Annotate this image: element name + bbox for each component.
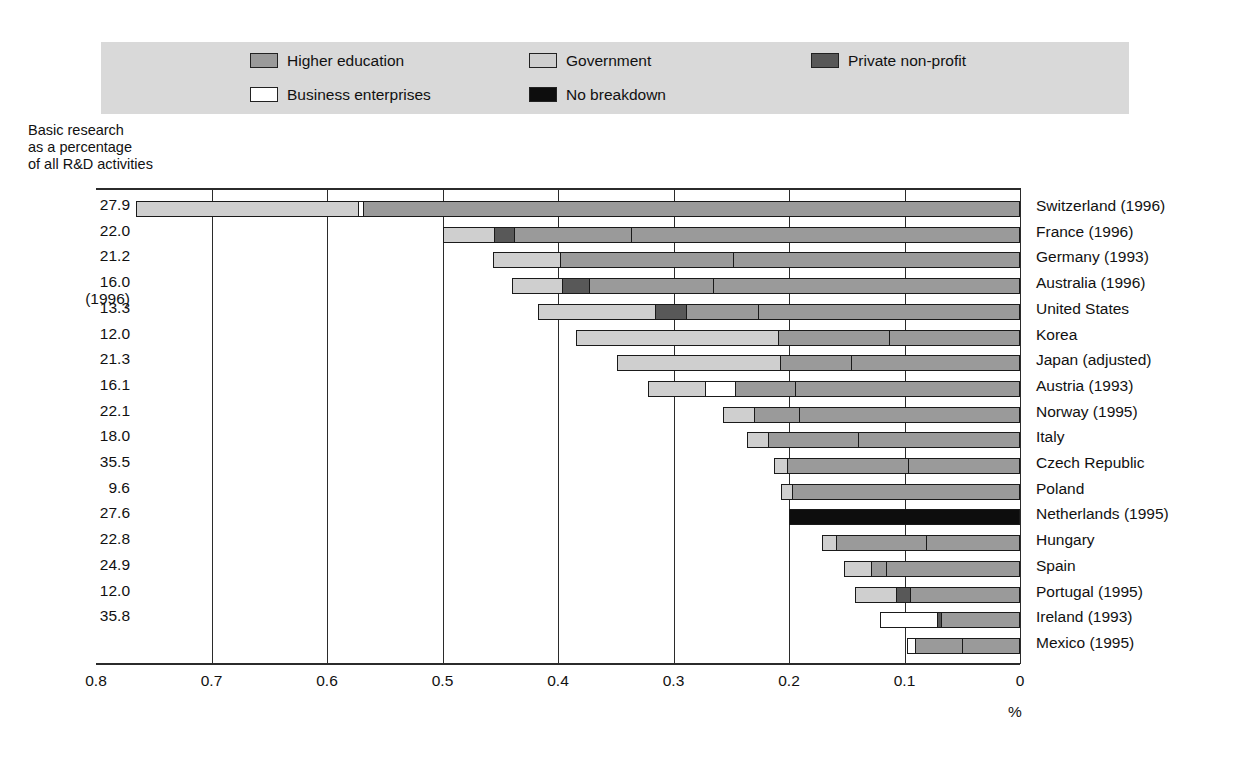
basic-research-pct-label: 35.5 <box>38 453 130 470</box>
bar-segment-government <box>137 202 358 216</box>
bar-segment-higher-education <box>758 305 1020 319</box>
bar-segment-higher-education <box>560 253 733 267</box>
bar-segment-government <box>618 356 780 370</box>
bar-segment-higher-education <box>686 305 758 319</box>
legend-label: Government <box>566 53 651 69</box>
country-label: Australia (1996) <box>1036 274 1145 292</box>
unit-label: % <box>1008 703 1022 721</box>
bar-segment-government <box>748 433 768 447</box>
bar-segment-higher-education <box>733 253 1020 267</box>
country-label: Austria (1993) <box>1036 377 1133 395</box>
bar-segment-higher-education <box>941 613 1020 627</box>
bar-segment-government <box>539 305 655 319</box>
bar-segment-government <box>724 408 754 422</box>
axis-top-rule <box>96 188 1020 190</box>
bar-segment-higher-education <box>886 562 1020 576</box>
bar-poland <box>781 484 1020 500</box>
bar-ireland-1993 <box>880 612 1020 628</box>
legend-item-private_non_profit: Private non-profit <box>811 53 966 69</box>
bar-segment-private-non-profit <box>494 228 514 242</box>
country-label: United States <box>1036 300 1129 318</box>
bar-segment-government <box>649 382 704 396</box>
basic-research-pct-label: 27.9 <box>38 196 130 213</box>
legend-label: Private non-profit <box>848 53 966 69</box>
bar-germany-1993 <box>493 252 1020 268</box>
legend-item-business_enterprises: Business enterprises <box>250 87 431 103</box>
gridline <box>905 188 906 664</box>
bar-segment-government <box>856 588 896 602</box>
axis-caption: Basic research as a percentage of all R&… <box>28 122 153 173</box>
bar-segment-higher-education <box>915 639 962 653</box>
legend-swatch-government-icon <box>529 53 557 68</box>
basic-research-pct-label: 22.8 <box>38 530 130 547</box>
basic-research-pct-label: 27.6 <box>38 504 130 521</box>
legend-label: Higher education <box>287 53 404 69</box>
bar-segment-higher-education <box>910 588 1020 602</box>
bar-segment-higher-education <box>962 639 1020 653</box>
bar-austria-1993 <box>648 381 1020 397</box>
bar-segment-higher-education <box>851 356 1020 370</box>
basic-research-pct-label: 12.0 <box>38 325 130 342</box>
bar-spain <box>844 561 1020 577</box>
bar-segment-private-non-profit <box>937 613 942 627</box>
bar-segment-government <box>577 331 778 345</box>
bar-segment-higher-education <box>858 433 1020 447</box>
legend-label: Business enterprises <box>287 87 431 103</box>
bar-portugal-1995 <box>855 587 1020 603</box>
country-label: Poland <box>1036 480 1084 498</box>
bar-segment-higher-education <box>713 279 1020 293</box>
bar-korea <box>576 330 1020 346</box>
bar-segment-higher-education <box>778 331 889 345</box>
bar-segment-higher-education <box>787 459 908 473</box>
bar-segment-higher-education <box>631 228 1020 242</box>
x-axis-tick-label: 0 <box>1016 672 1025 690</box>
chart-legend: Higher educationBusiness enterprisesGove… <box>101 42 1129 114</box>
x-axis-tick-label: 0.8 <box>85 672 107 690</box>
bar-italy <box>747 432 1020 448</box>
bar-segment-government <box>782 485 792 499</box>
bar-segment-government <box>444 228 495 242</box>
legend-label: No breakdown <box>566 87 666 103</box>
basic-research-pct-label: 35.8 <box>38 607 130 624</box>
bar-mexico-1995 <box>907 638 1020 654</box>
x-axis-tick-label: 0.5 <box>432 672 454 690</box>
bar-norway-1995 <box>723 407 1020 423</box>
gridline <box>674 188 675 664</box>
bar-netherlands-1995 <box>789 509 1020 525</box>
gridline <box>558 188 559 664</box>
country-label: Ireland (1993) <box>1036 608 1133 626</box>
bar-segment-higher-education <box>754 408 799 422</box>
bar-segment-no-breakdown <box>790 510 1020 524</box>
axis-bottom-rule <box>96 663 1020 665</box>
x-axis-tick-label: 0.4 <box>547 672 569 690</box>
bar-segment-business-enterprises <box>358 202 363 216</box>
x-axis-tick-label: 0.7 <box>201 672 223 690</box>
basic-research-pct-label: 22.0 <box>38 222 130 239</box>
gridline <box>789 188 790 664</box>
legend-swatch-private_non_profit-icon <box>811 53 839 68</box>
bar-segment-government <box>494 253 560 267</box>
bar-segment-government <box>775 459 787 473</box>
bar-segment-higher-education <box>735 382 795 396</box>
basic-research-pct-label: 18.0 <box>38 427 130 444</box>
country-label: Norway (1995) <box>1036 403 1138 421</box>
country-label: Hungary <box>1036 531 1095 549</box>
bar-segment-private-non-profit <box>562 279 589 293</box>
bar-segment-higher-education <box>363 202 1020 216</box>
country-label: Korea <box>1036 326 1077 344</box>
basic-research-pct-label: 22.1 <box>38 402 130 419</box>
bar-australia-1996 <box>512 278 1020 294</box>
country-label: Italy <box>1036 428 1064 446</box>
bar-segment-higher-education <box>836 536 926 550</box>
gridline <box>327 188 328 664</box>
country-label: Japan (adjusted) <box>1036 351 1151 369</box>
bar-japan-adjusted <box>617 355 1020 371</box>
basic-research-pct-label: 21.3 <box>38 350 130 367</box>
legend-item-higher_education: Higher education <box>250 53 404 69</box>
gridline <box>443 188 444 664</box>
bar-segment-higher-education <box>795 382 1020 396</box>
bar-segment-higher-education <box>871 562 886 576</box>
country-label: Netherlands (1995) <box>1036 505 1169 523</box>
bar-segment-government <box>823 536 836 550</box>
country-label: Switzerland (1996) <box>1036 197 1165 215</box>
